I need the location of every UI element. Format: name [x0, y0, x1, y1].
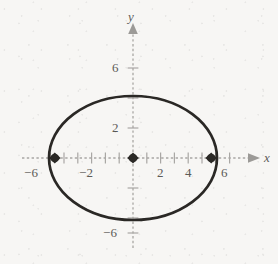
- coordinate-plane-svg: [0, 0, 278, 264]
- x-tick-label-2: 2: [157, 166, 164, 179]
- x-tick-label--6: −6: [24, 166, 38, 179]
- x-tick-label-4: 4: [185, 166, 192, 179]
- y-tick-label-2: 2: [112, 121, 119, 134]
- right-focus-dot: [207, 154, 215, 162]
- x-axis-arrowhead: [248, 153, 260, 163]
- ellipse-figure: −6 −2 2 4 6 6 2 −6 x y: [0, 0, 278, 264]
- y-tick-label-6: 6: [112, 61, 119, 74]
- center-dot: [129, 154, 137, 162]
- y-tick-label--6: −6: [103, 226, 117, 239]
- y-axis: [128, 23, 139, 248]
- x-tick-label--2: −2: [79, 166, 93, 179]
- x-axis-label: x: [264, 151, 270, 164]
- y-axis-arrowhead: [128, 23, 138, 34]
- x-tick-label-6: 6: [221, 166, 228, 179]
- point-center: [127, 152, 139, 163]
- y-axis-label: y: [128, 10, 134, 23]
- left-focus-dot: [51, 154, 59, 162]
